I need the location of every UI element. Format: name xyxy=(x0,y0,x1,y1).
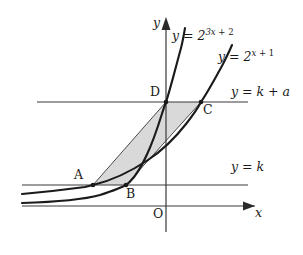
dot-A xyxy=(91,183,96,188)
shaded-region-abcd xyxy=(93,102,201,185)
line-label-k: y = k xyxy=(231,161,264,174)
curve-label-shallow-exp-const: 1 xyxy=(269,48,274,58)
origin-label-text: O xyxy=(153,206,163,221)
curve-2-pow-x-plus-1 xyxy=(22,45,232,194)
line-label-k-plus-a-text: y = k + a xyxy=(231,84,290,99)
curve-label-steep-text: y = 2 xyxy=(172,28,205,43)
line-label-k-plus-a: y = k + a xyxy=(231,86,290,99)
curve-label-steep-exp-sign: + xyxy=(216,27,229,37)
x-axis xyxy=(22,202,255,211)
curve-label-shallow: y = 2x + 1 xyxy=(218,49,274,64)
x-axis-label-text: x xyxy=(255,205,262,220)
point-label-D-text: D xyxy=(150,84,160,99)
point-label-D: D xyxy=(150,86,160,99)
curve-label-steep: y = 23x + 2 xyxy=(172,28,234,43)
curve-label-shallow-text: y = 2 xyxy=(218,49,251,64)
point-label-B: B xyxy=(126,188,135,201)
curve-label-steep-exp-const: 2 xyxy=(228,27,233,37)
y-axis-label-text: y xyxy=(153,15,160,30)
dot-D xyxy=(164,100,169,105)
curve-label-steep-exp-coef: 3x xyxy=(205,27,215,37)
point-label-C: C xyxy=(203,104,213,117)
math-figure: y = 23x + 2 y = 2x + 1 y = k + a y = k A… xyxy=(0,0,303,255)
y-axis-label: y xyxy=(153,17,160,30)
point-label-A-text: A xyxy=(74,167,83,182)
point-label-C-text: C xyxy=(203,102,213,117)
origin-label: O xyxy=(153,208,163,221)
curve-label-shallow-exp-sign: + xyxy=(256,48,269,58)
point-label-A: A xyxy=(74,169,83,182)
line-label-k-text: y = k xyxy=(231,159,264,174)
point-label-B-text: B xyxy=(126,186,135,201)
x-axis-label: x xyxy=(255,207,262,220)
